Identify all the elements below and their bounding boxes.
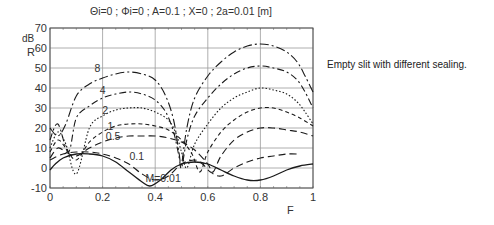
y-tick-label: 20 (35, 122, 47, 134)
y-tick-label: 70 (35, 22, 47, 34)
y-tick-label: 0 (41, 162, 47, 174)
series-group (50, 44, 313, 186)
y-tick-label: -10 (31, 182, 47, 194)
chart: Θi=0 ; Φi=0 ; A=0.1 ; X=0 ; 2a=0.01 [m] … (0, 0, 330, 225)
x-tick-label: 0.8 (253, 191, 268, 203)
series-line-m-0-01 (50, 154, 313, 186)
curve-label: 2 (102, 104, 108, 116)
curve-label: 8 (94, 62, 100, 74)
series-line-2 (50, 88, 313, 174)
x-axis-label: F (287, 204, 294, 216)
y-axis-label: R (27, 46, 35, 58)
x-tick-label: 0.2 (95, 191, 110, 203)
series-line-8 (50, 44, 313, 165)
y-axis-unit: dB (22, 33, 35, 44)
y-tick-label: 40 (35, 82, 47, 94)
x-tick-label: 0.4 (148, 191, 163, 203)
curve-label: 4 (100, 84, 106, 96)
y-tick-label: 60 (35, 42, 47, 54)
curve-label: M=0.01 (145, 172, 180, 184)
curve-label: 0.1 (129, 150, 144, 162)
curve-label: 0.5 (106, 130, 121, 142)
series-line-0-5 (50, 128, 313, 173)
x-tick-label: 1 (310, 191, 316, 203)
series-line-1 (50, 107, 313, 172)
figure-caption: Empty slit with different sealing. (327, 59, 467, 70)
x-axis-ticks: 00.20.40.60.81 (47, 191, 316, 203)
x-tick-label: 0 (47, 191, 53, 203)
y-tick-label: 10 (35, 142, 47, 154)
y-tick-label: 30 (35, 102, 47, 114)
chart-title: Θi=0 ; Φi=0 ; A=0.1 ; X=0 ; 2a=0.01 [m] (90, 5, 272, 17)
y-tick-label: 50 (35, 62, 47, 74)
curve-labels: 84210.50.1M=0.01 (94, 62, 180, 184)
x-tick-label: 0.6 (200, 191, 215, 203)
